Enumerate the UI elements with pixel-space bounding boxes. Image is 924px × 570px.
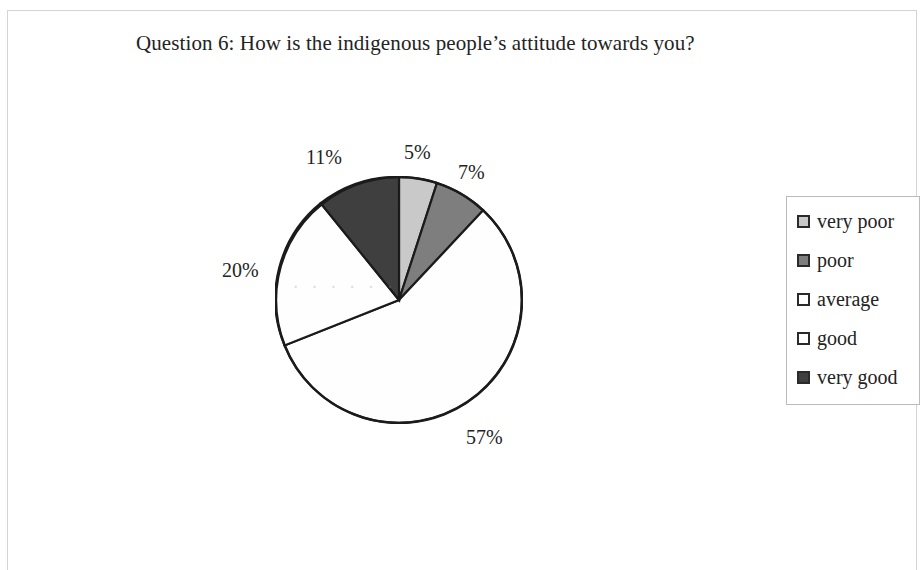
legend-label-average: average xyxy=(817,288,879,310)
pie-label-poor: 7% xyxy=(458,160,485,184)
pie-label-very-poor: 5% xyxy=(404,140,431,164)
pie-label-good: 20% xyxy=(222,258,259,282)
chart-title: Question 6: How is the indigenous people… xyxy=(136,30,836,57)
pie-chart-svg xyxy=(275,176,523,424)
legend-label-poor: poor xyxy=(817,249,854,271)
pie-label-average: 57% xyxy=(466,425,503,449)
legend-swatch-very-poor-icon xyxy=(797,215,810,228)
legend-swatch-average-icon xyxy=(797,293,810,306)
legend-item-good[interactable]: good xyxy=(797,323,857,353)
legend-label-good: good xyxy=(817,327,857,349)
legend-swatch-poor-icon xyxy=(797,254,810,267)
legend-item-poor[interactable]: poor xyxy=(797,245,854,275)
chart-legend: very poor poor average good very good xyxy=(786,196,920,405)
legend-item-very-poor[interactable]: very poor xyxy=(797,206,894,236)
pie-label-very-good: 11% xyxy=(306,145,342,169)
legend-item-very-good[interactable]: very good xyxy=(797,362,898,392)
pie-chart xyxy=(275,176,523,424)
legend-swatch-good-icon xyxy=(797,332,810,345)
legend-item-average[interactable]: average xyxy=(797,284,879,314)
legend-label-very-poor: very poor xyxy=(817,210,894,232)
legend-swatch-very-good-icon xyxy=(797,371,810,384)
legend-label-very-good: very good xyxy=(817,366,898,388)
